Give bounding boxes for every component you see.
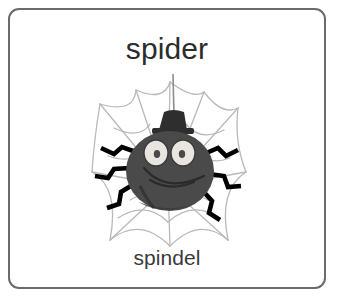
spider-body-icon [126,131,214,211]
spider-illustration [78,68,258,248]
translation-label: spindel [10,245,324,270]
page-title: spider [10,32,324,66]
spider-hat-icon [152,110,194,134]
web-thread-icon [173,74,174,116]
flashcard: spider [8,8,326,289]
